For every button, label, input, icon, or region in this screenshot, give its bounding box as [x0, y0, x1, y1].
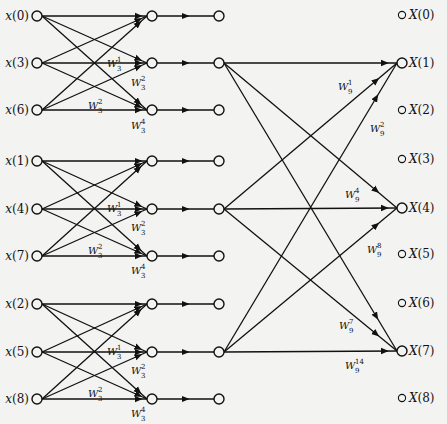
stage1-node: [147, 11, 157, 21]
input-label: x(7): [5, 249, 29, 263]
svg-text:14: 14: [355, 358, 364, 366]
arrow-icon: [376, 98, 377, 99]
output-node: [397, 58, 407, 68]
output-label: X(8): [408, 391, 435, 405]
svg-text:9: 9: [355, 367, 359, 375]
arrow-icon: [138, 102, 139, 103]
svg-text:2: 2: [380, 121, 384, 129]
input-node: [32, 58, 42, 68]
twiddle-label: W23: [88, 98, 102, 115]
input-label: x(3): [5, 56, 29, 70]
twiddle-label: W43: [131, 263, 146, 280]
arrow-icon: [375, 81, 376, 82]
output-label: X(1): [408, 56, 435, 70]
output-node: [397, 203, 407, 213]
input-node: [32, 251, 42, 261]
svg-text:9: 9: [355, 196, 359, 204]
stage2-node: [214, 58, 224, 68]
arrow-icon: [138, 169, 139, 170]
svg-text:8: 8: [377, 242, 381, 250]
output-node: [398, 11, 405, 18]
svg-text:1: 1: [117, 344, 121, 352]
input-label: x(5): [5, 345, 29, 359]
svg-text:9: 9: [349, 327, 353, 335]
stage2-node: [214, 394, 224, 404]
output-node: [398, 299, 405, 306]
output-node: [398, 250, 405, 257]
svg-text:4: 4: [355, 187, 360, 195]
arrow-icon: [138, 24, 139, 25]
stage2-node: [214, 251, 224, 261]
stage1-node: [147, 105, 157, 115]
svg-text:3: 3: [141, 127, 145, 135]
output-label: X(7): [408, 344, 435, 358]
svg-text:2: 2: [98, 386, 102, 394]
svg-text:3: 3: [141, 272, 145, 280]
input-node: [32, 105, 42, 115]
svg-text:3: 3: [117, 353, 121, 361]
fft-flow-graph: x(0)x(3)x(6)x(1)x(4)x(7)x(2)x(5)x(8)X(0)…: [0, 0, 447, 424]
stage1-node: [147, 394, 157, 404]
svg-text:3: 3: [98, 252, 102, 260]
svg-text:9: 9: [380, 130, 384, 138]
twiddle-label: W89: [367, 242, 381, 259]
svg-text:3: 3: [98, 395, 102, 403]
input-node: [32, 11, 42, 21]
twiddle-label: W23: [131, 363, 145, 380]
svg-text:3: 3: [141, 415, 145, 423]
input-label: x(1): [5, 154, 29, 168]
stage1-node: [147, 347, 157, 357]
svg-text:2: 2: [98, 98, 102, 106]
stage2-node: [214, 105, 224, 115]
svg-text:1: 1: [348, 79, 352, 87]
twiddle-label: W43: [131, 406, 146, 423]
twiddle-label: W23: [88, 243, 102, 260]
input-label: x(6): [5, 103, 29, 117]
svg-text:2: 2: [98, 243, 102, 251]
svg-text:1: 1: [117, 56, 121, 64]
svg-text:4: 4: [141, 263, 146, 271]
output-label: X(0): [408, 8, 435, 22]
output-label: X(4): [408, 201, 435, 215]
twiddle-label: W13: [107, 344, 121, 361]
output-node: [397, 346, 407, 356]
output-label: X(6): [408, 296, 435, 310]
stage1-node: [147, 299, 157, 309]
input-label: x(2): [5, 297, 29, 311]
output-label: X(3): [408, 152, 435, 166]
twiddle-label: W29: [370, 121, 384, 138]
output-node: [398, 155, 405, 162]
output-label: X(5): [408, 247, 435, 261]
input-node: [32, 394, 42, 404]
twiddle-label: W23: [131, 220, 145, 237]
input-label: x(0): [5, 9, 29, 23]
twiddle-label: W79: [339, 318, 353, 335]
svg-text:4: 4: [141, 406, 146, 414]
twiddle-label: W23: [88, 386, 102, 403]
arrow-icon: [375, 333, 376, 334]
svg-text:7: 7: [349, 318, 353, 326]
arrow-icon: [138, 248, 139, 249]
svg-text:3: 3: [141, 229, 145, 237]
output-node: [398, 394, 405, 401]
input-node: [32, 299, 42, 309]
svg-text:3: 3: [117, 210, 121, 218]
twiddle-label: W23: [131, 75, 145, 92]
stage2-node: [214, 11, 224, 21]
svg-text:9: 9: [348, 88, 352, 96]
svg-text:3: 3: [141, 84, 145, 92]
twiddle-label: W43: [131, 118, 146, 135]
output-label: X(2): [408, 103, 435, 117]
input-node: [32, 204, 42, 214]
arrow-icon: [375, 225, 376, 226]
twiddle-label: W149: [345, 358, 364, 375]
arrow-icon: [138, 391, 139, 392]
stage2-node: [214, 299, 224, 309]
svg-text:1: 1: [117, 201, 121, 209]
input-label: x(8): [5, 392, 29, 406]
arrow-icon: [376, 316, 377, 317]
twiddle-label: W49: [345, 187, 360, 204]
input-label: x(4): [5, 202, 29, 216]
svg-text:3: 3: [98, 107, 102, 115]
output-node: [398, 106, 405, 113]
